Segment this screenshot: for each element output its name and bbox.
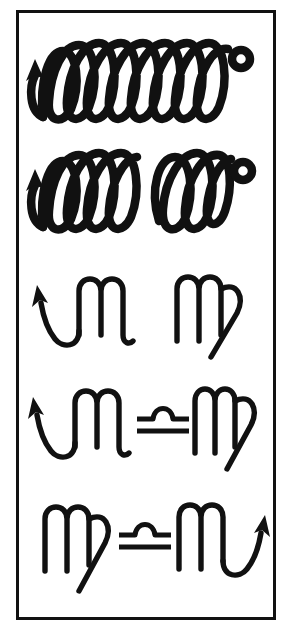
figure-page xyxy=(0,0,290,639)
virgo-body xyxy=(195,389,235,453)
loop-chain-continuous xyxy=(19,31,273,131)
libra-upper-bar xyxy=(137,409,189,420)
row-scorpio-libra-virgo xyxy=(19,365,273,473)
end-circle xyxy=(234,162,252,180)
row5-glyphs xyxy=(19,483,273,603)
scorpio-glyph-left xyxy=(28,391,129,457)
row-virgo-libra-scorpio xyxy=(19,483,273,603)
loop-group-left xyxy=(42,153,137,229)
end-circle xyxy=(232,50,250,68)
loop-chain-broken xyxy=(19,141,273,241)
virgo-glyph-right xyxy=(177,277,240,357)
scorpio-glyph-right xyxy=(179,505,270,575)
scorpio-body xyxy=(79,279,133,343)
libra-upper-bar xyxy=(119,525,171,536)
row-scorpio-virgo-pair xyxy=(19,253,273,361)
figure-border-frame xyxy=(16,10,276,620)
scorpio-arrow-tail xyxy=(223,533,261,575)
row3-glyphs xyxy=(19,253,273,361)
loop-chain-path xyxy=(42,43,228,119)
virgo-glyph-right xyxy=(195,389,254,469)
row-broken-loop-spiral xyxy=(19,141,273,241)
scorpio-body xyxy=(179,505,223,569)
scorpio-glyph-left xyxy=(32,279,133,345)
row4-glyphs xyxy=(19,365,273,473)
row-continuous-loop-spiral xyxy=(19,31,273,131)
virgo-descender-tail xyxy=(227,399,254,469)
scorpio-arrow-tail xyxy=(37,415,75,457)
scorpio-arrow-tail xyxy=(41,303,79,345)
virgo-body xyxy=(45,507,89,571)
scorpio-body xyxy=(75,391,129,455)
virgo-descender-tail xyxy=(79,517,108,591)
virgo-glyph-left xyxy=(45,507,108,591)
loop-group-right xyxy=(155,153,231,229)
virgo-body xyxy=(177,277,221,341)
virgo-descender-tail xyxy=(211,287,240,357)
libra-glyph-connector xyxy=(119,525,171,548)
libra-glyph-connector xyxy=(137,409,189,432)
